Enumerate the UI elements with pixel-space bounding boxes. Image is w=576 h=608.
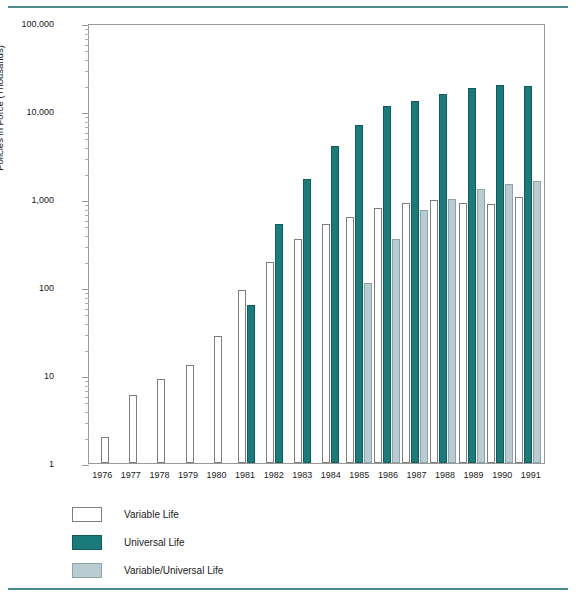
legend-item: Variable Life (72, 500, 402, 528)
x-axis-tick-label: 1979 (174, 470, 203, 480)
y-axis-minor-tick (85, 397, 89, 398)
bar (459, 203, 467, 463)
bar-group (176, 25, 204, 463)
y-axis-minor-tick (85, 439, 89, 440)
y-axis-minor-tick (85, 133, 89, 134)
x-axis-tick-label: 1978 (145, 470, 174, 480)
x-axis-tick-label: 1981 (231, 470, 260, 480)
bar-group (147, 25, 175, 463)
bar (129, 395, 137, 463)
bar (266, 262, 274, 463)
bar (247, 305, 255, 463)
bar (487, 204, 495, 463)
bar (496, 85, 504, 463)
y-axis-major-tick (82, 289, 89, 290)
y-axis-minor-tick (85, 247, 89, 248)
y-axis-minor-tick (85, 303, 89, 304)
bar-group (288, 25, 316, 463)
y-axis-minor-tick (85, 351, 89, 352)
y-axis-minor-tick (85, 60, 89, 61)
bar (331, 146, 339, 463)
y-axis-minor-tick (85, 227, 89, 228)
x-axis-tick-label: 1990 (488, 470, 517, 480)
y-axis-minor-tick (85, 159, 89, 160)
bar (392, 239, 400, 463)
y-axis-minor-tick (85, 403, 89, 404)
x-axis-tick-label: 1977 (117, 470, 146, 480)
bar (346, 217, 354, 463)
y-axis-minor-tick (85, 71, 89, 72)
x-axis-tick-label: 1983 (288, 470, 317, 480)
x-axis-tick-label: 1988 (431, 470, 460, 480)
plot-area (88, 24, 545, 464)
bar (383, 106, 391, 463)
bar (420, 210, 428, 463)
y-axis-major-tick (82, 25, 89, 26)
bar-group (401, 25, 429, 463)
bar-group (119, 25, 147, 463)
y-axis-minor-tick (85, 335, 89, 336)
y-axis-minor-tick (85, 412, 89, 413)
y-axis-minor-tick (85, 34, 89, 35)
chart-page: Policies in Force (Thousands) 100,00010,… (0, 0, 576, 608)
bar (448, 199, 456, 463)
y-axis-tick-label: 100,000 (21, 19, 54, 29)
y-axis-tick-label: 100 (39, 283, 54, 293)
y-axis-major-tick (82, 377, 89, 378)
bar-group (514, 25, 542, 463)
bar (524, 86, 532, 463)
bar (186, 365, 194, 463)
bar-group (317, 25, 345, 463)
y-axis-minor-tick (85, 386, 89, 387)
y-axis-major-tick (82, 113, 89, 114)
y-axis-minor-tick (85, 298, 89, 299)
y-axis-major-tick (82, 465, 89, 466)
legend-swatch (72, 535, 102, 550)
y-axis-minor-tick (85, 29, 89, 30)
x-axis-labels: 1976197719781979198019811982198319841985… (88, 470, 545, 480)
y-axis-major-tick (82, 201, 89, 202)
bar (430, 200, 438, 463)
y-axis-minor-tick (85, 117, 89, 118)
bar-group (260, 25, 288, 463)
y-axis-minor-tick (85, 263, 89, 264)
bar (214, 336, 222, 463)
y-axis-minor-tick (85, 236, 89, 237)
y-axis-minor-tick (85, 148, 89, 149)
bar (303, 179, 311, 463)
x-axis-tick-label: 1989 (459, 470, 488, 480)
y-axis-minor-tick (85, 45, 89, 46)
bar (477, 189, 485, 463)
y-axis-minor-tick (85, 51, 89, 52)
y-axis-minor-tick (85, 293, 89, 294)
bar (275, 224, 283, 463)
legend-item: Variable/Universal Life (72, 556, 402, 584)
bottom-divider-rule (8, 588, 568, 590)
bar-group (204, 25, 232, 463)
x-axis-tick-label: 1984 (317, 470, 346, 480)
legend-item: Universal Life (72, 528, 402, 556)
y-axis-title: Policies in Force (Thousands) (0, 0, 5, 228)
x-axis-tick-label: 1980 (202, 470, 231, 480)
y-axis-minor-tick (85, 221, 89, 222)
x-axis-tick-label: 1987 (402, 470, 431, 480)
bar-group (486, 25, 514, 463)
chart-legend: Variable LifeUniversal LifeVariable/Univ… (72, 500, 402, 584)
bar (411, 101, 419, 463)
bar (533, 181, 541, 463)
y-axis-minor-tick (85, 87, 89, 88)
y-axis-minor-tick (85, 215, 89, 216)
y-axis-tick-label: 10 (44, 371, 54, 381)
y-axis-minor-tick (85, 39, 89, 40)
bar (364, 283, 372, 463)
legend-swatch (72, 507, 102, 522)
y-axis-minor-tick (85, 309, 89, 310)
bar-group (373, 25, 401, 463)
legend-swatch (72, 563, 102, 578)
x-axis-tick-label: 1986 (374, 470, 403, 480)
bar-group (91, 25, 119, 463)
bar (294, 239, 302, 463)
bar (101, 437, 109, 463)
y-axis-labels: Policies in Force (Thousands) 100,00010,… (0, 0, 88, 500)
y-axis-tick-label: 1 (49, 459, 54, 469)
